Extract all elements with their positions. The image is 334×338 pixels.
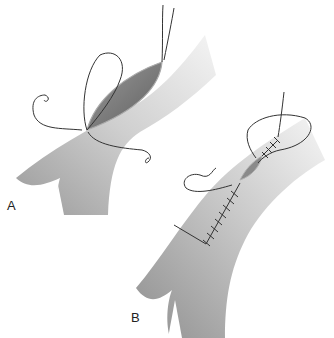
vessel-b [136,118,325,338]
panel-label-a: A [7,198,16,213]
illustration [0,0,334,338]
panel-label-b: B [131,310,140,325]
